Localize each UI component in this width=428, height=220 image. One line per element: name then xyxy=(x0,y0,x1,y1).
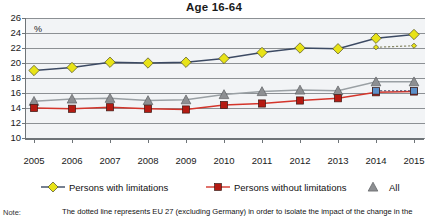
gridline xyxy=(26,123,425,124)
x-tick-mark xyxy=(148,138,149,143)
diamond-marker-icon xyxy=(40,181,66,193)
x-tick-mark xyxy=(110,138,111,143)
x-tick-label: 2010 xyxy=(204,155,244,166)
gridlines xyxy=(26,18,425,138)
note-label: Note: xyxy=(3,208,21,217)
y-tick-label: 26 xyxy=(0,12,21,23)
note-text: The dotted line represents EU 27 (exclud… xyxy=(62,207,426,217)
x-tick-mark xyxy=(72,138,73,143)
gridline xyxy=(26,18,425,19)
x-tick-label: 2011 xyxy=(242,155,282,166)
legend-label: All xyxy=(389,182,400,193)
x-tick-label: 2007 xyxy=(90,155,130,166)
y-tick-mark xyxy=(22,33,26,34)
y-tick-mark xyxy=(22,78,26,79)
y-tick-mark xyxy=(22,18,26,19)
gridline xyxy=(26,63,425,64)
gridline xyxy=(26,93,425,94)
x-tick-mark xyxy=(186,138,187,143)
triangle-marker-icon xyxy=(360,181,386,193)
x-tick-mark xyxy=(414,138,415,143)
x-tick-label: 2014 xyxy=(356,155,396,166)
y-tick-mark xyxy=(22,123,26,124)
gridline xyxy=(26,48,425,49)
square-marker-icon xyxy=(205,181,231,193)
plot-area xyxy=(25,18,425,138)
legend-label: Persons with limitations xyxy=(69,182,168,193)
x-tick-mark xyxy=(376,138,377,143)
chart-legend: Persons with limitationsPersons without … xyxy=(0,181,428,197)
gridline xyxy=(26,33,425,34)
gridline xyxy=(26,108,425,109)
y-tick-mark xyxy=(22,63,26,64)
gridline xyxy=(26,78,425,79)
legend-label: Persons without limitations xyxy=(234,182,346,193)
y-tick-mark xyxy=(22,108,26,109)
x-tick-label: 2005 xyxy=(14,155,54,166)
legend-item[interactable]: All xyxy=(360,181,400,193)
y-tick-label: 14 xyxy=(0,102,21,113)
y-tick-label: 18 xyxy=(0,72,21,83)
legend-item[interactable]: Persons without limitations xyxy=(205,181,346,193)
y-tick-label: 22 xyxy=(0,42,21,53)
chart-title: Age 16-64 xyxy=(0,1,428,13)
x-tick-label: 2008 xyxy=(128,155,168,166)
legend-item[interactable]: Persons with limitations xyxy=(40,181,168,193)
y-tick-label: 10 xyxy=(0,132,21,143)
y-axis-unit-label: % xyxy=(34,24,42,34)
y-tick-label: 16 xyxy=(0,87,21,98)
x-tick-mark xyxy=(338,138,339,143)
x-tick-label: 2009 xyxy=(166,155,206,166)
y-tick-mark xyxy=(22,93,26,94)
y-tick-mark xyxy=(22,48,26,49)
x-tick-label: 2012 xyxy=(280,155,320,166)
x-tick-mark xyxy=(224,138,225,143)
x-tick-mark xyxy=(34,138,35,143)
chart-note: Note: The dotted line represents EU 27 (… xyxy=(0,204,428,220)
y-tick-label: 12 xyxy=(0,117,21,128)
y-tick-label: 24 xyxy=(0,27,21,38)
x-tick-label: 2006 xyxy=(52,155,92,166)
chart-root: Age 16-64 262422201816141210 % 200520062… xyxy=(0,0,428,220)
x-tick-mark xyxy=(300,138,301,143)
y-tick-label: 20 xyxy=(0,57,21,68)
x-tick-mark xyxy=(262,138,263,143)
x-tick-label: 2013 xyxy=(318,155,358,166)
x-tick-label: 2015 xyxy=(394,155,428,166)
